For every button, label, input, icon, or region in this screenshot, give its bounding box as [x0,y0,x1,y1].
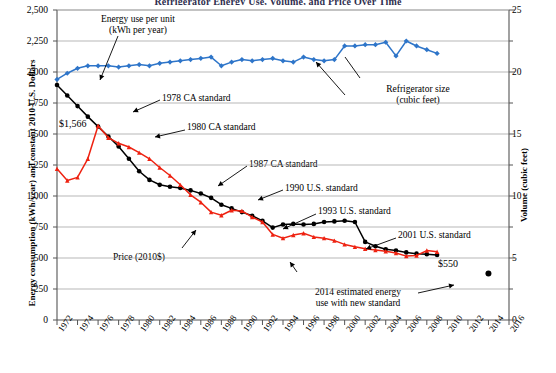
series-marker [414,43,419,48]
series-marker [168,184,173,189]
series-marker [352,43,357,48]
series-marker [137,169,142,174]
series-marker [137,62,142,67]
series-marker [167,59,172,64]
series-marker [157,183,162,188]
series-marker [270,225,275,230]
annotation-leader [345,57,360,78]
annotation-leader [218,166,247,186]
series-marker [312,222,317,227]
series-marker [363,42,368,47]
series-marker [65,93,70,98]
annotation-arrowhead [449,284,454,289]
series-marker [55,83,60,88]
series-marker [86,157,90,161]
series-marker [301,55,306,60]
series-marker [219,202,224,207]
series-marker [198,56,203,61]
series-marker [270,56,275,61]
series-marker [260,57,265,62]
series-marker [116,64,121,69]
series-marker [321,58,326,63]
series-marker [147,63,152,68]
series-marker [199,191,204,196]
series-marker [178,58,183,63]
series-marker [434,51,439,56]
series-marker [126,63,131,68]
series-marker [209,196,214,201]
series-marker [86,114,91,119]
series-marker [280,58,285,63]
series-marker [157,61,162,66]
series-marker [281,222,286,227]
series-marker [332,219,337,224]
series-marker [75,66,80,71]
annotation-leader [100,36,118,80]
series-marker [322,220,327,225]
chart-container: Refrigerator Energy Use, Volume, and Pri… [0,0,556,373]
series-line [57,85,437,255]
series-marker [229,59,234,64]
series-marker [239,57,244,62]
annotation-arrowhead [218,181,224,186]
series-marker [311,57,316,62]
series-marker [75,104,80,109]
annotation-arrowhead [191,230,196,236]
series-marker [291,59,296,64]
series-marker [188,57,193,62]
series-marker [95,63,100,68]
series-marker [424,47,429,52]
series-marker [301,222,306,227]
series-line [57,126,437,256]
annotation-arrowhead [290,262,295,268]
series-marker [363,240,368,245]
annotation-leader [316,62,345,95]
extra-data-point [485,271,491,277]
series-marker [127,157,132,162]
series-marker [85,63,90,68]
series-marker [342,219,347,224]
series-marker [188,188,193,193]
series-marker [250,58,255,63]
series-marker [353,220,358,225]
series-marker [55,167,59,171]
series-marker [147,178,152,183]
series-marker [373,42,378,47]
